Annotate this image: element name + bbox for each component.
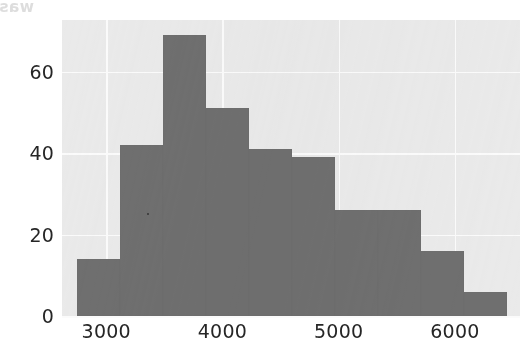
y-tick-label: 20	[2, 224, 54, 246]
x-tick-label: 6000	[430, 320, 479, 342]
histogram-bar	[120, 145, 163, 316]
histogram-bar	[163, 35, 206, 316]
histogram-bar	[464, 292, 507, 316]
y-tick-label: 40	[2, 142, 54, 164]
x-axis-tick-labels: 3000400050006000	[0, 320, 530, 350]
y-axis-tick-labels: 0204060	[0, 20, 54, 316]
histogram-bar	[249, 149, 292, 316]
gridline-h-0	[62, 316, 520, 318]
bleedthrough-line: was Euler's extrapolation method and mos…	[0, 0, 34, 16]
histogram-bar	[206, 108, 249, 316]
histogram-bar	[335, 210, 378, 316]
histogram-bar	[77, 259, 120, 316]
histogram-bar	[421, 251, 464, 316]
histogram-bars	[62, 20, 520, 316]
x-tick-label: 4000	[198, 320, 247, 342]
histogram-bar	[292, 157, 335, 316]
plot-axes-area	[62, 20, 520, 316]
histogram-bar	[378, 210, 421, 316]
y-tick-label: 60	[2, 61, 54, 83]
x-tick-label: 3000	[82, 320, 131, 342]
histogram-figure: was Euler's extrapolation method and mos…	[0, 0, 530, 356]
x-tick-label: 5000	[314, 320, 363, 342]
